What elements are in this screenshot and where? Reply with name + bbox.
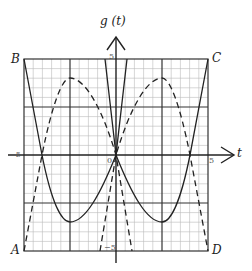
axes [8,37,234,263]
tick-x-zero: 0 [107,156,112,165]
tick-x-neg5: −5 [9,150,21,159]
corner-label-b: B [11,52,20,66]
tick-y-neg5: −5 [104,243,116,252]
tick-x-pos5: 5 [209,156,214,165]
graph-canvas [0,0,252,271]
x-axis-label: t [237,146,242,160]
corner-label-a: A [11,243,20,257]
y-axis-label: g (t) [100,14,126,28]
corner-label-d: D [212,243,222,257]
tick-y-pos5: 5 [109,52,114,61]
corner-label-c: C [212,51,221,65]
